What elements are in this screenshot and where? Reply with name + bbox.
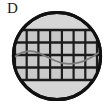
figure-panel: D [0,0,111,108]
circular-grid-diagram [0,0,111,108]
grid-group [8,30,106,80]
